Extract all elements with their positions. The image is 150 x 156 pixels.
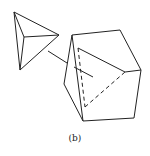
- tetrahedron-edge-inner-bottom: [20, 37, 24, 70]
- cube-edge-inner-right: [125, 70, 141, 72]
- cube-edge-inner-diagonal: [78, 48, 125, 72]
- cube-outline: [64, 30, 141, 121]
- tetrahedron: [14, 12, 59, 70]
- cube-dashed-diagonal: [85, 72, 125, 107]
- tetrahedron-edge-inner-right: [24, 35, 59, 37]
- figure-caption: (b): [0, 133, 150, 143]
- cube-dashed-vertical: [78, 48, 85, 107]
- connector-segment-outer: [48, 51, 67, 63]
- cube: [64, 30, 141, 121]
- connector-line: [48, 51, 93, 77]
